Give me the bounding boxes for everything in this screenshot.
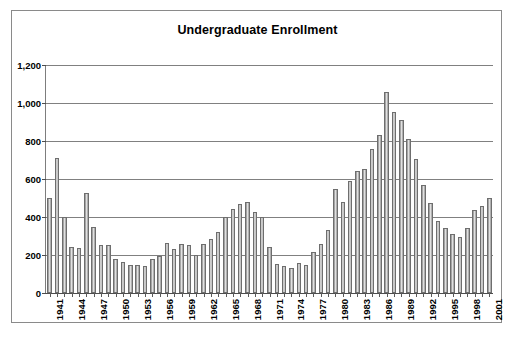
bar <box>289 268 294 293</box>
x-axis-tick <box>211 293 212 297</box>
bar-slot <box>361 65 368 293</box>
x-axis-tick <box>204 293 205 297</box>
bar-slot <box>163 65 170 293</box>
bar-slot <box>376 65 383 293</box>
x-axis-tick <box>79 293 80 297</box>
bar-slot <box>412 65 419 293</box>
y-axis-tick-label: 600 <box>25 174 41 185</box>
x-axis-tick <box>416 293 417 297</box>
x-axis-tick-label: 1962 <box>208 299 219 320</box>
x-axis-tick <box>240 293 241 297</box>
bar <box>392 112 397 293</box>
bar-slot <box>398 65 405 293</box>
bar <box>267 247 272 293</box>
x-axis-tick <box>226 293 227 297</box>
bar-slot <box>280 65 287 293</box>
x-axis-tick <box>357 293 358 297</box>
bar <box>143 266 148 293</box>
x-axis-tick <box>72 293 73 297</box>
bar-slot <box>46 65 53 293</box>
bar-slot <box>112 65 119 293</box>
x-axis-tick <box>401 293 402 297</box>
bar <box>260 217 265 293</box>
bar <box>275 264 280 293</box>
bar-slot <box>405 65 412 293</box>
bar-slot <box>295 65 302 293</box>
x-axis-tick-label: 1995 <box>449 299 460 320</box>
bar-slot <box>427 65 434 293</box>
x-axis-tick-label: 1950 <box>120 299 131 320</box>
bar <box>487 198 492 293</box>
x-axis-tick <box>482 293 483 297</box>
bar <box>311 252 316 293</box>
y-axis-tick-label: 1,000 <box>17 98 41 109</box>
bar-slot <box>259 65 266 293</box>
x-axis-tick <box>255 293 256 297</box>
x-axis-tick <box>167 293 168 297</box>
bar-slot <box>449 65 456 293</box>
x-axis-tick <box>86 293 87 297</box>
bar-series <box>46 65 493 293</box>
x-axis-tick <box>365 293 366 297</box>
x-axis-tick <box>291 293 292 297</box>
x-axis-tick-label: 1989 <box>405 299 416 320</box>
x-axis-tick <box>108 293 109 297</box>
x-axis-tick-label: 1998 <box>471 299 482 320</box>
x-axis-tick-label: 1971 <box>274 299 285 320</box>
y-axis-tick-label: 400 <box>25 212 41 223</box>
bar <box>406 139 411 293</box>
bar-slot <box>302 65 309 293</box>
x-axis-tick <box>233 293 234 297</box>
bar-slot <box>354 65 361 293</box>
bar-slot <box>434 65 441 293</box>
bar-slot <box>61 65 68 293</box>
bar-slot <box>156 65 163 293</box>
bar <box>62 217 67 293</box>
bar <box>91 227 96 294</box>
bar-slot <box>119 65 126 293</box>
bar <box>304 265 309 293</box>
x-axis-tick-label: 1980 <box>339 299 350 320</box>
y-axis-tick-label: 800 <box>25 136 41 147</box>
bar <box>253 212 258 293</box>
bar-slot <box>310 65 317 293</box>
x-axis-tick <box>379 293 380 297</box>
x-axis-tick-label: 2001 <box>493 299 504 320</box>
bar <box>245 202 250 293</box>
x-axis-tick <box>321 293 322 297</box>
bar <box>480 206 485 293</box>
bar <box>297 263 302 293</box>
x-axis-tick <box>116 293 117 297</box>
bar-slot <box>346 65 353 293</box>
y-axis-tick-label: 200 <box>25 250 41 261</box>
bar <box>428 203 433 293</box>
bar-slot <box>97 65 104 293</box>
bar-slot <box>68 65 75 293</box>
chart-title: Undergraduate Enrollment <box>12 23 503 37</box>
x-axis-tick <box>277 293 278 297</box>
x-axis-tick <box>475 293 476 297</box>
x-axis-tick-label: 1968 <box>252 299 263 320</box>
x-axis-tick <box>394 293 395 297</box>
x-axis-tick <box>189 293 190 297</box>
x-axis-tick <box>335 293 336 297</box>
x-axis-tick <box>196 293 197 297</box>
bar-slot <box>90 65 97 293</box>
bar <box>341 202 346 293</box>
y-axis-tick <box>42 293 46 294</box>
bar <box>55 158 60 293</box>
bar-slot <box>222 65 229 293</box>
bar <box>223 217 228 293</box>
bar-slot <box>324 65 331 293</box>
bar-slot <box>288 65 295 293</box>
x-axis-tick-label: 1986 <box>383 299 394 320</box>
bar-slot <box>251 65 258 293</box>
bar <box>282 266 287 293</box>
bar-slot <box>229 65 236 293</box>
x-axis-tick <box>453 293 454 297</box>
bar <box>458 237 463 293</box>
bar-slot <box>390 65 397 293</box>
bar-slot <box>185 65 192 293</box>
x-axis-tick <box>182 293 183 297</box>
bar <box>157 256 162 293</box>
